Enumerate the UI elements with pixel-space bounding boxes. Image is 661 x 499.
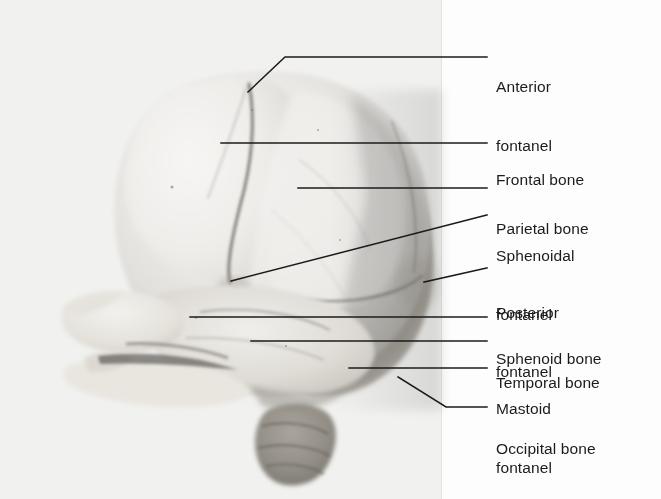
label-line-1: Occipital bone	[496, 439, 596, 459]
anatomy-figure: Anterior fontanel Frontal bone Parietal …	[0, 0, 661, 499]
leader-line-posterior-fontanel	[424, 268, 487, 282]
leader-line-sphenoidal-fontanel	[231, 215, 487, 281]
label-occipital-bone: Occipital bone	[496, 400, 596, 498]
leader-line-occipital-bone	[398, 377, 487, 407]
label-line-1: Anterior	[496, 77, 552, 97]
label-line-1: Sphenoidal	[496, 246, 575, 266]
leader-line-anterior-fontanel	[248, 57, 487, 92]
